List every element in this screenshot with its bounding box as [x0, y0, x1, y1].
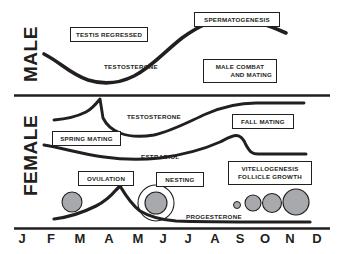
month-label-1: F	[43, 231, 59, 246]
box-male-combat-line1: MALE COMBAT	[208, 63, 272, 72]
box-testis-regressed: TESTIS REGRESSED	[70, 27, 148, 42]
month-label-2: M	[72, 231, 88, 246]
month-label-11: D	[309, 231, 325, 246]
box-vitellogenesis-follicle-growth: VITELLOGENESIS FOLLICLE GROWTH	[228, 161, 312, 185]
follicle-growth-4	[283, 189, 309, 215]
month-label-0: J	[14, 231, 30, 246]
box-ovulation: OVULATION	[78, 171, 134, 186]
follicle-growth-2	[245, 195, 261, 211]
female-testosterone-label: TESTOSTERONE	[127, 113, 181, 120]
follicle-ovulated-egg-jun	[145, 192, 167, 214]
box-spermatogenesis: SPERMATOGENESIS	[194, 12, 280, 27]
box-fall-mating: FALL MATING	[232, 114, 294, 129]
follicle-regressed-feb	[62, 192, 82, 212]
box-spring-mating: SPRING MATING	[52, 131, 121, 146]
female-section-label: FEMALE	[20, 115, 42, 196]
box-male-combat-and-mating: MALE COMBAT AND MATING	[203, 59, 277, 83]
male-section-label: MALE	[20, 26, 42, 82]
follicle-growth-3	[263, 194, 282, 213]
month-label-10: N	[282, 231, 298, 246]
month-label-3: A	[101, 231, 117, 246]
month-label-5: J	[155, 231, 171, 246]
month-label-8: S	[232, 231, 248, 246]
follicle-growth-1	[234, 202, 241, 209]
month-label-9: O	[257, 231, 273, 246]
box-male-combat-line2: AND MATING	[208, 71, 272, 80]
month-label-7: A	[207, 231, 223, 246]
seasonal-hormone-diagram: MALE FEMALE TESTIS REGRESSED SPERMATOGEN…	[0, 0, 344, 254]
box-nesting: NESTING	[156, 172, 204, 187]
estradiol-label: ESTRADIOL	[141, 153, 179, 160]
male-testosterone-label: TESTOSTERONE	[104, 63, 158, 70]
progesterone-label: PROGESTERONE	[186, 213, 242, 220]
month-label-4: M	[130, 231, 146, 246]
month-label-6: J	[180, 231, 196, 246]
box-vitellogenesis-line2: FOLLICLE GROWTH	[233, 173, 307, 182]
box-vitellogenesis-line1: VITELLOGENESIS	[233, 165, 307, 174]
